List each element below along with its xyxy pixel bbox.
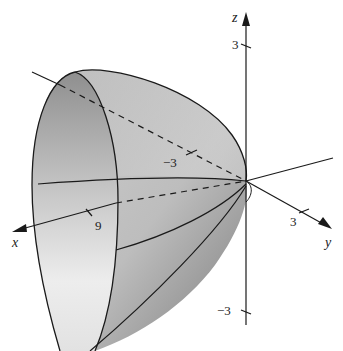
z-axis-arrow-icon bbox=[242, 12, 250, 26]
x-axis-negative bbox=[246, 158, 333, 181]
z-axis-label: z bbox=[231, 10, 238, 25]
paraboloid-figure: z 3 −3 x 9 y 3 −3 bbox=[0, 0, 343, 351]
z-tick-label-neg: −3 bbox=[217, 303, 231, 318]
z-tick-label-pos: 3 bbox=[232, 37, 239, 52]
y-tick-label-neg: −3 bbox=[163, 155, 177, 170]
y-axis-label: y bbox=[323, 235, 332, 250]
y-axis-positive bbox=[246, 181, 325, 225]
y-tick-label-pos: 3 bbox=[290, 214, 297, 229]
y-axis-negative-outside bbox=[32, 72, 60, 85]
x-axis-label: x bbox=[11, 235, 19, 250]
x-axis-arrow-icon bbox=[12, 224, 27, 232]
x-tick-label: 9 bbox=[95, 218, 102, 233]
y-axis-arrow-icon bbox=[318, 217, 332, 229]
